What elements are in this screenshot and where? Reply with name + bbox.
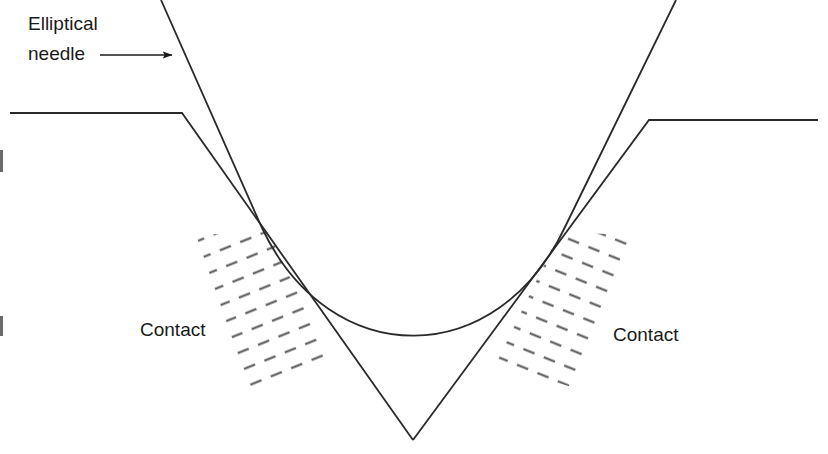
needle-vgroove-diagram: Elliptical needle Contact Contact — [0, 0, 828, 454]
page-edge-mark-bottom — [0, 316, 3, 336]
label-contact-left: Contact — [140, 319, 206, 340]
label-elliptical-needle-line1: Elliptical — [28, 13, 98, 34]
contact-hatch-left — [180, 220, 350, 405]
label-elliptical-needle-line2: needle — [28, 43, 85, 64]
contact-hatch-left-group — [180, 220, 350, 405]
page-edge-mark-top — [0, 150, 3, 172]
figure-canvas: Elliptical needle Contact Contact — [0, 0, 828, 454]
contact-hatch-right — [480, 220, 650, 405]
label-contact-right: Contact — [613, 324, 679, 345]
contact-hatch-right-group — [480, 220, 650, 405]
